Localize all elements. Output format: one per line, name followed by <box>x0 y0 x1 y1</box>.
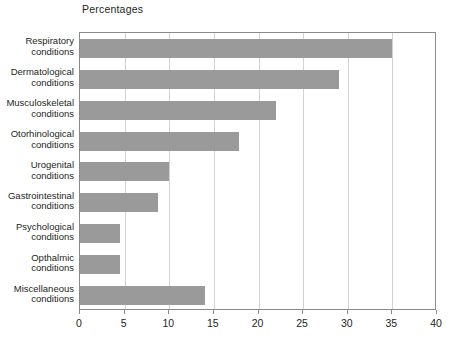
axis-tick-label: 20 <box>252 317 264 329</box>
category-label-line2: conditions <box>0 78 74 89</box>
category-label: Urogenitalconditions <box>0 160 74 181</box>
value-axis: 0510152025303540 <box>79 310 436 340</box>
bar[interactable] <box>80 70 339 89</box>
axis-tick <box>347 310 348 314</box>
axis-tick-label: 40 <box>430 317 442 329</box>
category-label-line2: conditions <box>0 294 74 305</box>
category-label-line2: conditions <box>0 140 74 151</box>
axis-tick <box>124 310 125 314</box>
axis-tick <box>436 310 437 314</box>
axis-tick-label: 35 <box>386 317 398 329</box>
category-label-line2: conditions <box>0 109 74 120</box>
bar-slot <box>80 218 435 249</box>
axis-tick-label: 25 <box>296 317 308 329</box>
category-label-line1: Urogenital <box>0 160 74 171</box>
category-label-line2: conditions <box>0 47 74 58</box>
plot-area <box>79 32 436 310</box>
chart-title: Percentages <box>82 3 143 15</box>
bar-slot <box>80 187 435 218</box>
bar[interactable] <box>80 162 169 181</box>
bar[interactable] <box>80 39 392 58</box>
axis-tick-label: 15 <box>207 317 219 329</box>
axis-tick <box>302 310 303 314</box>
bar[interactable] <box>80 286 205 305</box>
bar-slot <box>80 33 435 64</box>
bar-slot <box>80 249 435 280</box>
bar-slot <box>80 280 435 311</box>
percentages-bar-chart: Percentages RespiratoryconditionsDermato… <box>0 0 458 342</box>
bar-slot <box>80 95 435 126</box>
bar-slot <box>80 126 435 157</box>
axis-tick-label: 0 <box>76 317 82 329</box>
category-label: Psychologicalconditions <box>0 222 74 243</box>
bar[interactable] <box>80 224 120 243</box>
axis-tick <box>391 310 392 314</box>
category-label: Musculoskeletalconditions <box>0 98 74 119</box>
axis-tick-label: 30 <box>341 317 353 329</box>
axis-tick <box>213 310 214 314</box>
bar[interactable] <box>80 132 239 151</box>
category-label-line2: conditions <box>0 263 74 274</box>
category-label: Opthalmicconditions <box>0 253 74 274</box>
axis-tick <box>79 310 80 314</box>
category-label-line2: conditions <box>0 201 74 212</box>
category-label: Otorhinologicalconditions <box>0 129 74 150</box>
category-label: Respiratoryconditions <box>0 36 74 57</box>
category-label: Miscellaneousconditions <box>0 284 74 305</box>
axis-tick-label: 5 <box>121 317 127 329</box>
axis-tick <box>258 310 259 314</box>
category-label-line2: conditions <box>0 171 74 182</box>
category-label: Gastrointestinalconditions <box>0 191 74 212</box>
bar[interactable] <box>80 101 276 120</box>
bar[interactable] <box>80 255 120 274</box>
category-axis-labels: RespiratoryconditionsDermatologicalcondi… <box>0 32 74 310</box>
bar[interactable] <box>80 193 158 212</box>
axis-tick <box>168 310 169 314</box>
bar-slot <box>80 64 435 95</box>
category-label-line2: conditions <box>0 232 74 243</box>
bar-slot <box>80 157 435 188</box>
category-label: Dermatologicalconditions <box>0 67 74 88</box>
bars-layer <box>80 33 435 309</box>
axis-tick-label: 10 <box>162 317 174 329</box>
